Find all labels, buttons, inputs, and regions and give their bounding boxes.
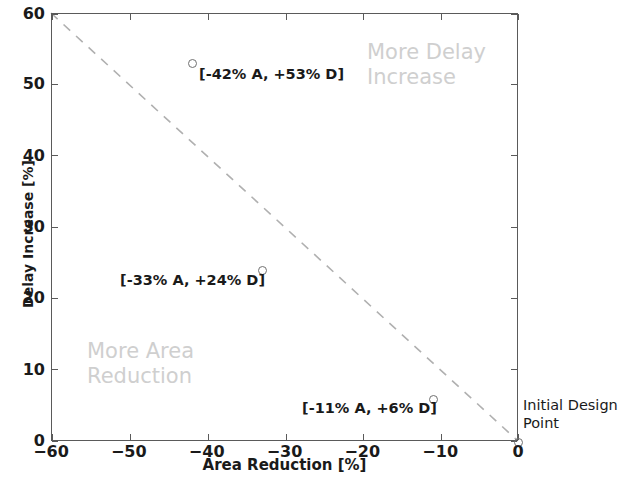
x-tick--10 <box>441 434 442 440</box>
x-tick--50 <box>130 434 131 440</box>
x-tick-top--30 <box>286 14 287 20</box>
region-label-more-delay-increase: More Delay Increase <box>367 40 486 90</box>
y-tick-label-0: 0 <box>45 433 56 449</box>
x-tick-top--10 <box>441 14 442 20</box>
x-tick-top-0 <box>518 14 519 20</box>
y-axis-title: Delay Increase [%] <box>21 114 35 354</box>
x-tick--30 <box>286 434 287 440</box>
y-tick-label-30: 30 <box>45 219 67 235</box>
y-tick-label-10: 10 <box>45 362 67 378</box>
y-tick-label-10-text: 10 <box>23 362 45 378</box>
y-tick-label-40: 40 <box>45 148 67 164</box>
x-tick-top--40 <box>208 14 209 20</box>
y-tick-right-60 <box>511 14 517 15</box>
x-tick--20 <box>363 434 364 440</box>
data-point-label-3: [-11% A, +6% D] <box>302 401 437 416</box>
x-axis-title: Area Reduction [%] <box>51 458 518 473</box>
y-tick-right-50 <box>511 84 517 85</box>
y-tick-right-30 <box>511 227 517 228</box>
y-tick-label-20: 20 <box>45 290 67 306</box>
y-tick-label-50-text: 50 <box>23 76 45 92</box>
plot-area: More Delay Increase More Area Reduction … <box>51 13 518 441</box>
x-tick-top--50 <box>130 14 131 20</box>
x-tick--40 <box>208 434 209 440</box>
y-tick-right-10 <box>511 369 517 370</box>
data-point-label-2: [-33% A, +24% D] <box>120 273 265 288</box>
y-tick-label-60-text: 60 <box>23 6 45 22</box>
y-tick-label-0-text: 0 <box>34 433 45 449</box>
y-tick-right-40 <box>511 155 517 156</box>
y-tick-label-50: 50 <box>45 76 67 92</box>
data-point-marker-1[interactable] <box>188 59 197 68</box>
region-label-more-area-reduction: More Area Reduction <box>87 339 194 389</box>
y-tick-right-20 <box>511 298 517 299</box>
initial-design-point-label: Initial Design Point <box>523 396 618 432</box>
data-point-label-1: [-42% A, +53% D] <box>199 67 344 82</box>
x-tick-top--20 <box>363 14 364 20</box>
scatter-chart-figure: More Delay Increase More Area Reduction … <box>0 0 620 479</box>
y-tick-label-60: 60 <box>45 6 67 22</box>
